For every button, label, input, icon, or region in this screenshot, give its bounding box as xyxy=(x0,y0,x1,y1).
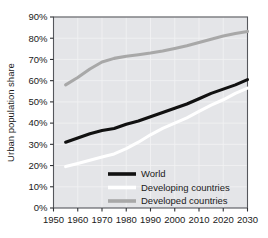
y-tick-label: 20% xyxy=(28,160,48,171)
x-tick-label: 2020 xyxy=(213,214,234,225)
x-tick-label: 1990 xyxy=(140,214,161,225)
legend-label-world: World xyxy=(141,168,166,179)
y-tick-label: 30% xyxy=(28,139,48,150)
y-tick-label: 40% xyxy=(28,117,48,128)
x-tick-label: 1980 xyxy=(116,214,137,225)
y-axis-title: Urban population share xyxy=(5,63,16,162)
x-axis-tick-labels: 195019601970198019902000201020202030 xyxy=(43,214,258,225)
x-tick-label: 2010 xyxy=(188,214,209,225)
x-tick-label: 1970 xyxy=(91,214,112,225)
y-tick-label: 80% xyxy=(28,33,48,44)
y-tick-label: 50% xyxy=(28,96,48,107)
y-tick-label: 10% xyxy=(28,181,48,192)
x-tick-label: 1950 xyxy=(43,214,64,225)
urban-population-share-chart: 0%10%20%30%40%50%60%70%80%90% 1950196019… xyxy=(0,0,268,238)
y-tick-label: 70% xyxy=(28,54,48,65)
y-axis-title-text: Urban population share xyxy=(5,63,16,162)
x-tick-label: 1960 xyxy=(67,214,88,225)
y-tick-label: 0% xyxy=(34,202,48,213)
legend-label-developing-countries: Developing countries xyxy=(141,182,230,193)
y-tick-label: 90% xyxy=(28,11,48,22)
x-tick-label: 2000 xyxy=(164,214,185,225)
x-tick-label: 2030 xyxy=(237,214,258,225)
legend-label-developed-countries: Developed countries xyxy=(141,195,228,206)
chart-svg: 0%10%20%30%40%50%60%70%80%90% 1950196019… xyxy=(0,0,268,238)
y-tick-label: 60% xyxy=(28,75,48,86)
